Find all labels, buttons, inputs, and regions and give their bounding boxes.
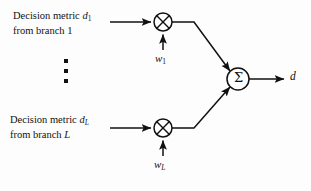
branch-L-line1: Decision metric dL [10, 114, 89, 125]
ellipsis-dot [64, 59, 68, 63]
branch-1-index: 1 [67, 25, 72, 36]
weight-L-label: wL [154, 158, 166, 174]
branch-L-line2-prefix: from branch [10, 129, 64, 140]
diagram-canvas: Σ Decision metric d1 from branch 1 Decis… [0, 0, 311, 191]
combiner-link-branch-1 [172, 22, 230, 71]
branch-L-metric-subscript: L [85, 118, 89, 127]
output-label: d [290, 70, 296, 83]
weight-L-subscript: L [161, 163, 165, 172]
weight-1-label: w1 [155, 52, 166, 68]
vertical-ellipsis [63, 59, 69, 83]
output-symbol: d [290, 70, 296, 82]
branch-1-line1-prefix: Decision metric [13, 10, 82, 21]
branch-1-metric-subscript: 1 [88, 14, 92, 23]
branch-1-input-label: Decision metric d1 from branch 1 [13, 10, 91, 38]
combiner-link-branch-L [172, 87, 230, 128]
weight-1-subscript: 1 [162, 57, 166, 66]
branch-L-line1-prefix: Decision metric [10, 114, 79, 125]
branch-L-line2: from branch L [10, 129, 70, 140]
ellipsis-dot [64, 69, 68, 73]
branch-1-line1: Decision metric d1 [13, 10, 91, 21]
branch-1-line2: from branch 1 [13, 25, 72, 36]
branch-1-line2-prefix: from branch [13, 25, 67, 36]
summation-sigma-glyph: Σ [231, 70, 246, 85]
ellipsis-dot [64, 79, 68, 83]
branch-L-input-label: Decision metric dL from branch L [10, 114, 89, 142]
branch-L-index: L [64, 129, 70, 140]
